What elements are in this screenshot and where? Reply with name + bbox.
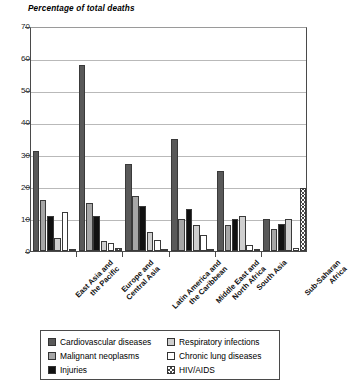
swatch-respiratory: [167, 338, 175, 346]
bar: [139, 206, 146, 251]
legend-label: Respiratory infections: [179, 338, 260, 347]
bar-group: [77, 28, 123, 251]
bar: [79, 65, 86, 251]
bar: [86, 203, 93, 251]
legend-item: Respiratory infections: [167, 335, 261, 349]
plot-area: [30, 27, 307, 252]
bar: [178, 219, 185, 251]
bar: [93, 216, 100, 251]
bar: [62, 212, 69, 251]
swatch-injuries: [48, 366, 56, 374]
bar: [33, 151, 40, 251]
swatch-hiv-aids: [167, 366, 175, 374]
bar: [101, 241, 108, 251]
legend-label: Chronic lung diseases: [179, 352, 261, 361]
bar: [207, 249, 214, 251]
bar: [200, 235, 207, 251]
legend-label: HIV/AIDS: [179, 366, 215, 375]
bar: [69, 249, 76, 251]
chart-title: Percentage of total deaths: [28, 4, 135, 13]
swatch-neoplasms: [48, 352, 56, 360]
bar-group: [123, 28, 169, 251]
bar: [171, 139, 178, 252]
legend-column-left: Cardiovascular diseasesMalignant neoplas…: [48, 335, 151, 377]
legend-label: Injuries: [60, 366, 87, 375]
legend-item: Cardiovascular diseases: [48, 335, 151, 349]
bar: [161, 249, 168, 251]
bar: [293, 248, 300, 251]
bar-group: [262, 28, 308, 251]
bar-group: [216, 28, 262, 251]
bar: [254, 249, 261, 251]
legend-label: Cardiovascular diseases: [60, 338, 151, 347]
bar: [40, 200, 47, 251]
legend-item: HIV/AIDS: [167, 363, 261, 377]
bar: [154, 240, 161, 251]
x-axis-labels: East Asia andthe PacificEurope andCentra…: [0, 252, 320, 324]
legend-column-right: Respiratory infectionsChronic lung disea…: [167, 335, 261, 377]
x-axis-label: Sub-SaharanAfrica: [303, 258, 349, 304]
bar: [300, 188, 307, 251]
y-axis: 706050403020100: [0, 27, 30, 252]
bar: [246, 245, 253, 251]
bar: [125, 164, 132, 251]
bar-groups: [31, 28, 306, 251]
bar: [225, 225, 232, 251]
legend-item: Injuries: [48, 363, 151, 377]
bar: [147, 232, 154, 251]
bar: [263, 219, 270, 251]
bar: [54, 238, 61, 251]
bar: [285, 219, 292, 251]
bar: [239, 216, 246, 251]
legend-item: Chronic lung diseases: [167, 349, 261, 363]
bar-group: [170, 28, 216, 251]
x-axis-label: East Asia andthe Pacific: [73, 258, 121, 306]
x-axis-label: Europe andCentral Asia: [118, 258, 162, 302]
chart-legend: Cardiovascular diseasesMalignant neoplas…: [40, 330, 280, 380]
swatch-chronic-lung: [167, 352, 175, 360]
bar: [47, 216, 54, 251]
bar: [108, 243, 115, 251]
bar: [132, 196, 139, 251]
bar: [193, 225, 200, 251]
legend-label: Malignant neoplasms: [60, 352, 139, 361]
legend-item: Malignant neoplasms: [48, 349, 151, 363]
bar: [232, 219, 239, 251]
bar: [186, 209, 193, 251]
swatch-cardiovascular: [48, 338, 56, 346]
bar: [271, 229, 278, 252]
bar: [217, 171, 224, 251]
bar: [115, 248, 122, 251]
bar-group: [31, 28, 77, 251]
bar: [278, 224, 285, 251]
x-axis-label: Latin America andthe Caribbean: [170, 258, 229, 317]
